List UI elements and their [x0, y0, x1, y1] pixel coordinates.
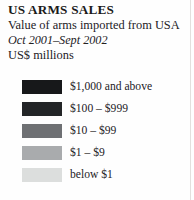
legend-item: $1 – $9: [0, 142, 194, 164]
legend-item-label: $1 – $9: [70, 146, 105, 160]
legend-item-label: below $1: [70, 168, 113, 182]
map-legend-panel: US ARMS SALES Value of arms imported fro…: [0, 0, 194, 200]
legend-swatch-icon: [22, 146, 62, 160]
legend-item: $1,000 and above: [0, 76, 194, 98]
legend-item-label: $1,000 and above: [70, 80, 152, 94]
page-title: US ARMS SALES: [8, 2, 192, 18]
legend-header: US ARMS SALES Value of arms imported fro…: [8, 2, 192, 63]
legend-item-label: $10 – $99: [70, 124, 116, 138]
legend-swatch-icon: [22, 124, 62, 138]
legend-item: $100 – $999: [0, 98, 194, 120]
legend-item-label: $100 – $999: [70, 102, 128, 116]
legend-items-list: $1,000 and above $100 – $999 $10 – $99 $…: [0, 76, 194, 186]
legend-swatch-icon: [22, 102, 62, 116]
legend-units: US$ millions: [8, 48, 192, 63]
legend-subtitle: Value of arms imported from USA: [8, 18, 192, 33]
legend-swatch-icon: [22, 168, 62, 182]
legend-item: $10 – $99: [0, 120, 194, 142]
legend-item: below $1: [0, 164, 194, 186]
legend-date-range: Oct 2001–Sept 2002: [8, 33, 192, 48]
legend-swatch-icon: [22, 80, 62, 94]
